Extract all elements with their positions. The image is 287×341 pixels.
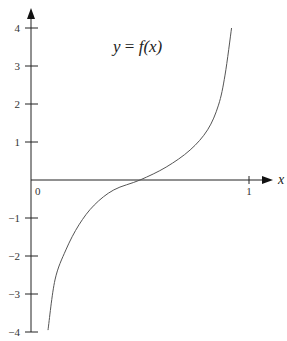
y-tick-label: 1 — [15, 136, 21, 148]
y-axis-arrow-icon — [27, 8, 35, 19]
x-axis-arrow-icon — [262, 176, 273, 184]
origin-label: 0 — [35, 185, 41, 197]
title-arg: (x) — [143, 37, 162, 56]
function-curve — [48, 28, 232, 330]
x-ticks: 1 — [246, 176, 252, 197]
title-y: y — [111, 37, 121, 56]
y-tick-label: −1 — [8, 212, 20, 224]
y-tick-label: 3 — [15, 60, 21, 72]
y-tick-label: −4 — [8, 326, 20, 338]
y-tick-label: 2 — [15, 98, 21, 110]
chart-title: y = f(x) — [111, 37, 163, 56]
y-tick-label: −3 — [8, 288, 20, 300]
y-tick-label: −2 — [8, 250, 20, 262]
x-tick-label: 1 — [246, 185, 252, 197]
function-plot: 4321−1−2−3−4 1 0 x y = f(x) — [0, 0, 287, 341]
x-axis-label: x — [277, 172, 285, 187]
title-eq: = — [121, 37, 139, 56]
y-tick-label: 4 — [15, 22, 21, 34]
